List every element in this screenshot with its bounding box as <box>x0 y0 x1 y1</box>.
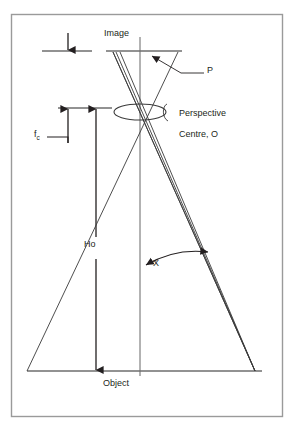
object-height-label: Ho <box>84 239 96 250</box>
field-ray-left <box>27 52 178 371</box>
figure-frame <box>12 15 283 417</box>
perspective-centre-line-2: Centre, O <box>179 129 218 139</box>
object-plane-label: Object <box>103 378 129 389</box>
p-leader-line <box>152 56 204 73</box>
angle-x-label: X <box>153 258 159 269</box>
image-plane-label: Image <box>104 28 129 39</box>
figure-canvas: Image Object P Perspective Centre, O fc … <box>0 0 294 431</box>
ray-diagram-svg <box>0 0 294 431</box>
focal-length-label: fc <box>34 129 40 143</box>
perspective-centre-label: Perspective Centre, O <box>169 97 226 150</box>
fc-leader-line <box>47 137 68 143</box>
point-p-label: P <box>207 65 213 76</box>
focal-length-subscript: c <box>37 134 40 141</box>
perspective-centre-line-1: Perspective <box>179 108 226 118</box>
